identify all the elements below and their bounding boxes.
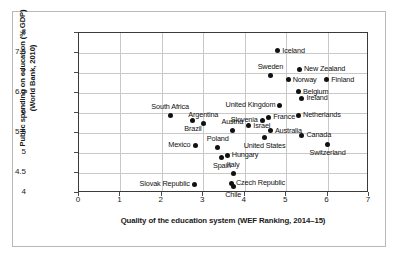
data-point [268,128,273,133]
data-point [299,133,304,138]
data-point-label: France [273,113,295,121]
x-tick-mark [368,192,369,196]
x-tick-mark [78,192,79,196]
data-point-label: Mexico [168,141,190,149]
data-point [231,171,236,176]
x-tick-mark [202,192,203,196]
data-point-label: South Africa [151,103,189,111]
data-point [219,155,224,160]
data-point [268,73,273,78]
x-tick-mark [244,192,245,196]
data-point-label: Czech Republic [236,179,285,187]
y-tick-label: 6.5 [0,88,26,96]
data-point [266,115,271,120]
data-point [193,143,198,148]
y-tick-label: 7.5 [0,48,26,56]
data-point [325,142,330,147]
x-tick-mark [327,192,328,196]
x-tick-label: 7 [358,196,378,204]
y-tick-label: 5.5 [0,128,26,136]
data-point-label: Finland [331,76,354,84]
data-point-label: Norway [293,76,317,84]
y-tick-label: 7 [0,68,26,76]
x-axis-title: Quality of the education system (WEF Ran… [78,216,368,225]
y-tick-label: 4.5 [0,168,26,176]
y-tick-label: 4 [0,188,26,196]
gridline-vertical [245,33,246,191]
plot-area: IcelandSwedenNew ZealandNorwayFinlandBel… [78,32,368,192]
data-point-label: Canada [306,131,331,139]
plot-inner: IcelandSwedenNew ZealandNorwayFinlandBel… [79,33,367,191]
x-tick-label: 0 [68,196,88,204]
data-point-label: Australia [275,127,302,135]
gridline-horizontal [79,53,367,54]
data-point-label: Switzerland [310,149,346,157]
data-point [225,153,230,158]
data-point-label: United States [244,142,286,150]
y-tick-label: 6 [0,108,26,116]
data-point [230,128,235,133]
data-point-label: Hungary [232,151,259,159]
gridline-horizontal [79,73,367,74]
data-point-label: United Kingdom [226,101,276,109]
x-tick-label: 6 [317,196,337,204]
data-point-label: Ireland [306,94,327,102]
data-point-label: Austria [221,118,243,126]
data-point-label: Slovak Republic [140,180,190,188]
data-point-label: Sweden [258,63,283,71]
y-tick-label: 5 [0,148,26,156]
data-point [215,145,220,150]
x-tick-label: 2 [151,196,171,204]
x-tick-mark [119,192,120,196]
data-point-label: Iceland [282,47,304,55]
x-tick-label: 1 [109,196,129,204]
data-point-label: New Zealand [304,65,345,73]
x-tick-mark [285,192,286,196]
data-point [246,123,251,128]
data-point [262,135,267,140]
data-point [296,113,301,118]
data-point [231,184,236,189]
x-tick-label: 5 [275,196,295,204]
x-tick-mark [161,192,162,196]
data-point-label: Italy [227,161,240,169]
y-tick-label: 8 [0,28,26,36]
data-point-label: Poland [207,135,229,143]
data-point [286,77,291,82]
data-point [277,103,282,108]
x-tick-label: 3 [192,196,212,204]
gridline-horizontal [79,173,367,174]
y-axis-title: Public spending on education (% GDP) (Wo… [18,0,38,168]
data-point [192,182,197,187]
data-point-label: Brazil [184,125,201,133]
data-point-label: Netherlands [303,111,341,119]
y-axis-title-line2: (World Bank, 2010) [28,0,38,168]
data-point [168,113,173,118]
data-point [299,96,304,101]
chart-figure: Public spending on education (% GDP) (Wo… [0,0,398,260]
data-point [297,67,302,72]
gridline-vertical [120,33,121,191]
data-point [190,118,195,123]
gridline-vertical [162,33,163,191]
data-point-label: Chile [225,191,241,199]
